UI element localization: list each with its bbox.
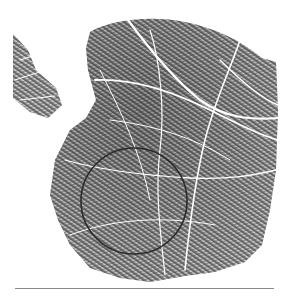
palm-print-image <box>0 0 285 297</box>
baseline-rule <box>15 288 274 289</box>
palm-print-figure <box>0 0 285 297</box>
palm-region <box>50 19 278 282</box>
thumb-region <box>13 34 62 118</box>
